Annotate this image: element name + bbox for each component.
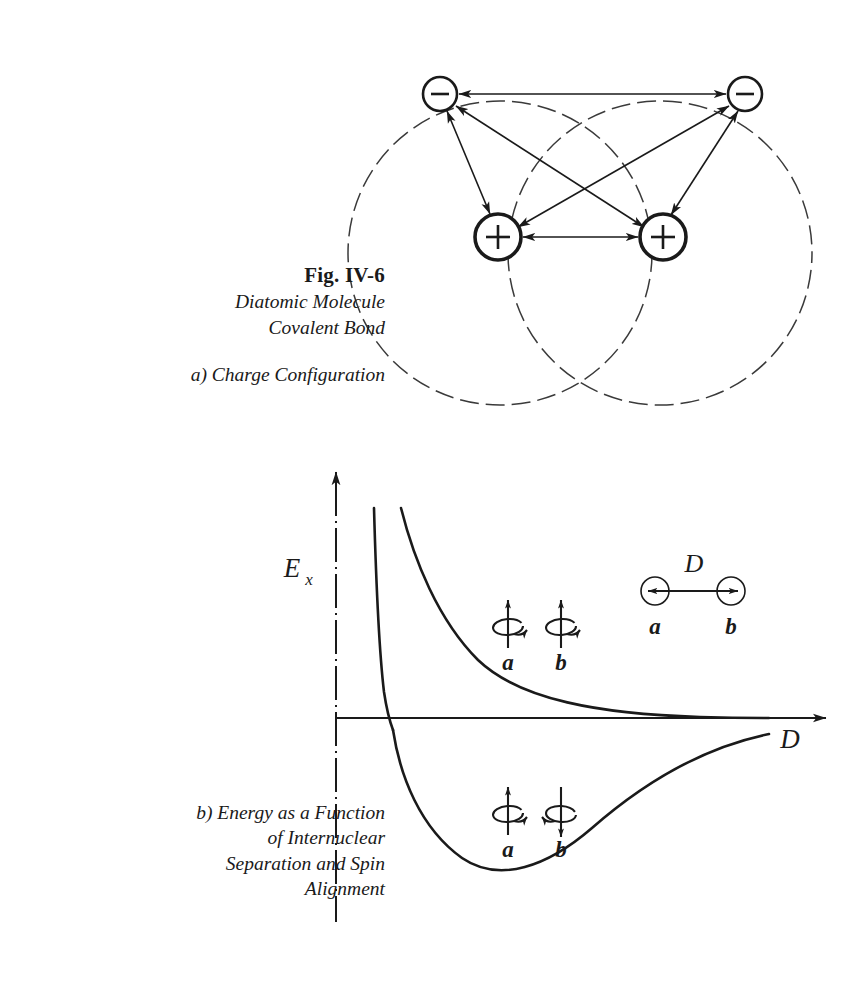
spin-marker-upper-b-label: b [555, 650, 567, 675]
inset-atom-a [641, 577, 669, 605]
inset-atom-b-label: b [725, 614, 737, 639]
arrow-electron-right-nucleus-right [671, 111, 738, 215]
spin-marker-lower-b-label: b [555, 837, 567, 862]
spin-marker-lower-a: a [492, 787, 527, 862]
figure-number: Fig. IV-6 [40, 262, 385, 289]
internuclear-separation-inset: D a b [641, 549, 745, 639]
figure-subtitle-line-1: Diatomic Molecule [40, 289, 385, 314]
curve-antiparallel-spin-bonding [393, 730, 769, 870]
caption-panel-b-line-4: Alignment [22, 876, 385, 901]
inset-atom-a-label: a [649, 614, 661, 639]
inset-distance-label: D [684, 549, 704, 578]
figure-subtitle-line-2: Covalent Bond [40, 315, 385, 340]
curve-parallel-spin-antibonding [401, 508, 769, 718]
electron-left [423, 77, 457, 111]
caption-panel-b-line-1: b) Energy as a Function [22, 800, 385, 825]
y-axis-label-text: E [283, 553, 301, 583]
curve-repulsive-core [374, 508, 393, 730]
caption-panel-b: b) Energy as a Function of Internuclear … [22, 800, 385, 901]
caption-panel-b-line-2: of Internuclear [22, 825, 385, 850]
charge-configuration-diagram [0, 0, 868, 460]
caption-panel-a: a) Charge Configuration [40, 362, 385, 387]
y-axis-label-subscript: x [304, 570, 313, 589]
caption-panel-b-line-3: Separation and Spin [22, 851, 385, 876]
arrow-electron-left-nucleus-left [447, 111, 490, 214]
spin-marker-lower-a-label: a [502, 837, 514, 862]
spin-marker-upper-a: a [492, 600, 527, 675]
nucleus-right [640, 214, 686, 260]
y-axis-label: E x [283, 553, 313, 589]
x-axis-label: D [779, 724, 800, 754]
figure-caption-main: Fig. IV-6 Diatomic Molecule Covalent Bon… [40, 262, 385, 340]
spin-marker-upper-b: b [545, 600, 580, 675]
figure-iv-6: Fig. IV-6 Diatomic Molecule Covalent Bon… [0, 0, 868, 994]
nucleus-left [475, 214, 521, 260]
spin-marker-lower-b: b [542, 787, 577, 862]
spin-marker-upper-a-label: a [502, 650, 514, 675]
inset-atom-b [717, 577, 745, 605]
electron-right [728, 77, 762, 111]
